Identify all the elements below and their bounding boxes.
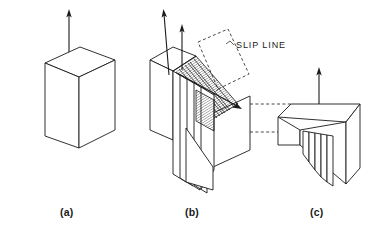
- load-arrow-a: [66, 9, 71, 58]
- slip-line-label: SLIP LINE: [236, 40, 286, 50]
- panel-a-group: [45, 9, 115, 148]
- caption-panel-a: (a): [60, 206, 73, 218]
- block-c-left-front-face: [278, 117, 300, 145]
- caption-panel-b: (b): [185, 206, 199, 218]
- caption-panel-c: (c): [310, 206, 323, 218]
- slip-deformation-diagram: SLIP LINE (a) (b) (c): [0, 0, 376, 233]
- cube-a-front-face: [45, 63, 79, 148]
- slip-steps-c: [303, 131, 333, 186]
- figure-root: SLIP LINE (a) (b) (c): [0, 0, 376, 233]
- block-b-left-front-face: [150, 60, 173, 140]
- panel-b-group: [150, 9, 250, 193]
- panel-c-group: [278, 67, 360, 186]
- slip-line-bracket: [226, 41, 234, 45]
